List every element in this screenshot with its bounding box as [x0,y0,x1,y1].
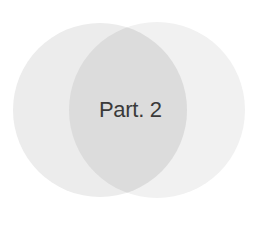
intersection-label: Part. 2 [99,97,157,123]
